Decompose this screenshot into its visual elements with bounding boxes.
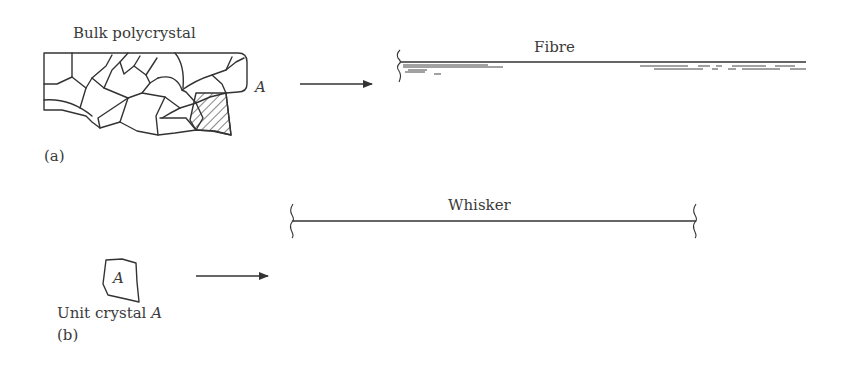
panel-b-label: (b): [57, 326, 78, 344]
panel-a-label: (a): [44, 147, 65, 165]
unit-crystal-letter: A: [113, 269, 124, 287]
unit-crystal-caption-text: Unit crystal: [57, 304, 151, 322]
fibre-break-mark: [397, 50, 400, 82]
whisker-title: Whisker: [448, 196, 511, 214]
grain-a-label: A: [255, 78, 266, 96]
fibre-title: Fibre: [534, 38, 575, 56]
bulk-polycrystal-title: Bulk polycrystal: [73, 24, 196, 42]
unit-crystal-caption: Unit crystal A: [57, 304, 162, 322]
unit-crystal-caption-letter: A: [151, 304, 162, 322]
figure-canvas: Bulk polycrystal A (a) Fibre Whisker A U…: [0, 0, 851, 369]
bulk-polycrystal-shape: [44, 53, 247, 135]
fibre-shape: [397, 50, 806, 82]
hatched-grain-a: [190, 93, 231, 135]
